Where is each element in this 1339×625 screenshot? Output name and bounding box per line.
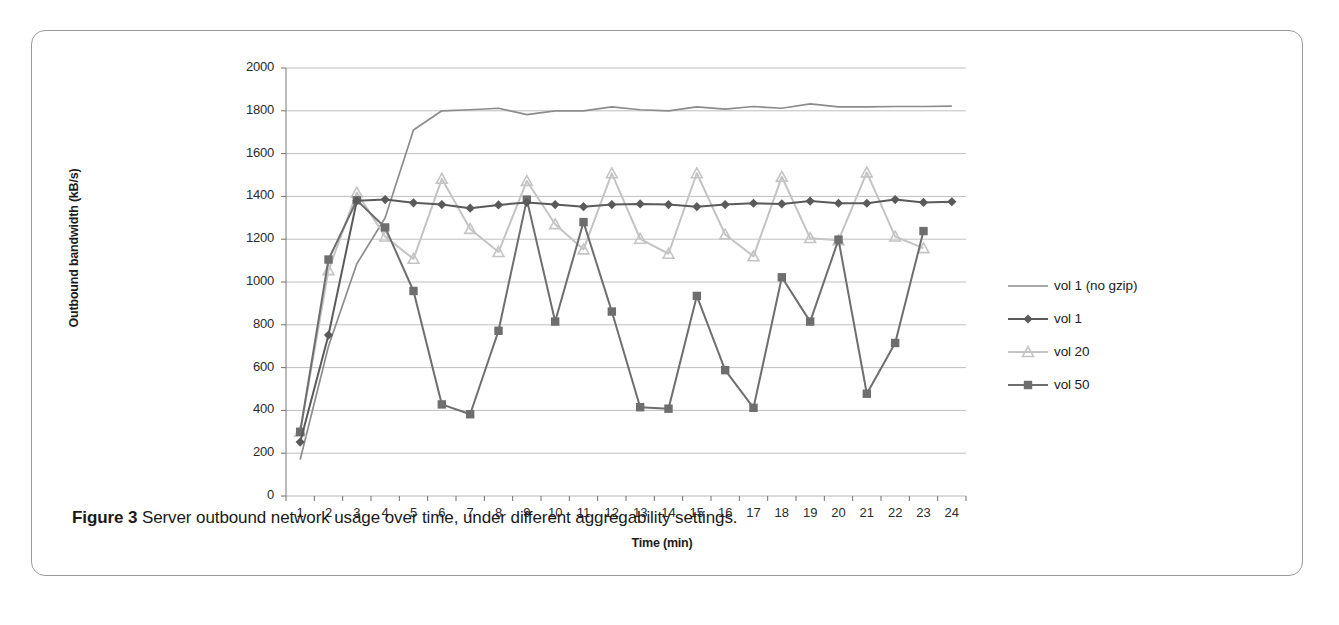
y-tick-label: 1000: [214, 273, 274, 288]
y-tick-label: 400: [214, 401, 274, 416]
legend-swatch-diamond-icon: [1007, 312, 1049, 326]
gridlines-group: [281, 68, 966, 496]
square-marker: [834, 235, 842, 243]
square-marker: [749, 404, 757, 412]
diamond-marker: [551, 200, 560, 209]
series-line: [300, 172, 923, 431]
legend-item[interactable]: vol 1 (no gzip): [1007, 269, 1247, 302]
legend-swatch-triangle-icon: [1007, 345, 1049, 359]
series-vol-1: [296, 195, 957, 447]
y-axis-title: Outbound bandwidth (kB/s): [67, 148, 81, 348]
square-marker: [551, 317, 559, 325]
diamond-marker: [834, 199, 843, 208]
square-marker: [806, 317, 814, 325]
x-tick-marks-group: [286, 496, 966, 501]
y-tick-label: 1200: [214, 230, 274, 245]
diamond-marker: [862, 199, 871, 208]
diamond-marker: [409, 198, 418, 207]
x-axis-title: Time (min): [552, 536, 772, 550]
diamond-marker: [579, 202, 588, 211]
legend-label: vol 1: [1054, 311, 1082, 326]
square-marker: [778, 273, 786, 281]
y-tick-label: 0: [214, 487, 274, 502]
diamond-marker: [636, 199, 645, 208]
y-tick-label: 600: [214, 359, 274, 374]
series-vol-50: [296, 195, 928, 436]
diamond-marker: [607, 200, 616, 209]
diamond-marker: [692, 202, 701, 211]
diamond-marker: [749, 199, 758, 208]
diamond-marker: [721, 200, 730, 209]
figure-caption: Figure 3 Server outbound network usage o…: [72, 508, 1252, 528]
legend-label: vol 50: [1054, 377, 1089, 392]
legend-swatch-none-icon: [1007, 279, 1049, 293]
y-tick-label: 800: [214, 316, 274, 331]
chart-legend: vol 1 (no gzip)vol 1vol 20vol 50: [1007, 269, 1247, 401]
legend-item[interactable]: vol 20: [1007, 335, 1247, 368]
square-marker: [409, 287, 417, 295]
square-marker: [863, 390, 871, 398]
square-marker: [381, 223, 389, 231]
y-tick-label: 200: [214, 444, 274, 459]
diamond-marker: [494, 200, 503, 209]
diamond-marker: [1023, 314, 1032, 323]
square-marker: [693, 292, 701, 300]
diamond-marker: [664, 200, 673, 209]
square-marker: [721, 366, 729, 374]
y-tick-label: 1400: [214, 187, 274, 202]
square-marker: [636, 403, 644, 411]
diamond-marker: [806, 197, 815, 206]
square-marker: [466, 410, 474, 418]
square-marker: [608, 307, 616, 315]
diamond-marker: [919, 198, 928, 207]
legend-swatch-square-icon: [1007, 378, 1049, 392]
square-marker: [579, 218, 587, 226]
figure-caption-label: Figure 3: [72, 508, 137, 527]
square-marker: [664, 404, 672, 412]
square-marker: [1024, 380, 1032, 388]
legend-item[interactable]: vol 50: [1007, 368, 1247, 401]
figure-caption-text: Server outbound network usage over time,…: [137, 508, 737, 527]
square-marker: [919, 227, 927, 235]
y-tick-label: 1800: [214, 102, 274, 117]
diamond-marker: [437, 200, 446, 209]
diamond-marker: [947, 197, 956, 206]
square-marker: [324, 255, 332, 263]
chart-plot-area: 0200400600800100012001400160018002000 12…: [32, 31, 1304, 577]
legend-label: vol 1 (no gzip): [1054, 278, 1137, 293]
y-tick-label: 2000: [214, 59, 274, 74]
legend-item[interactable]: vol 1: [1007, 302, 1247, 335]
y-tick-label: 1600: [214, 145, 274, 160]
square-marker: [891, 339, 899, 347]
square-marker: [494, 327, 502, 335]
legend-label: vol 20: [1054, 344, 1089, 359]
figure-container: 0200400600800100012001400160018002000 12…: [31, 30, 1303, 576]
diamond-marker: [777, 199, 786, 208]
diamond-marker: [466, 204, 475, 213]
square-marker: [438, 400, 446, 408]
